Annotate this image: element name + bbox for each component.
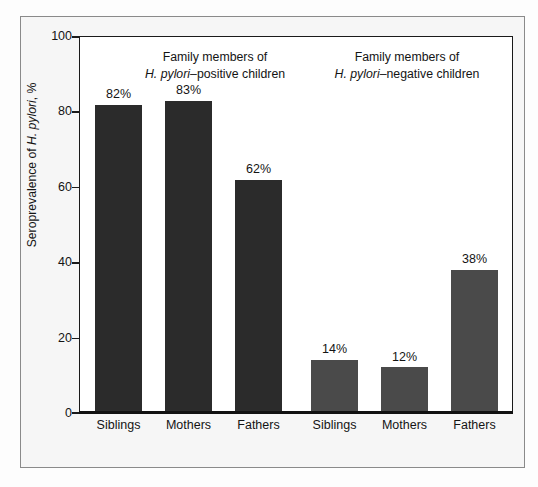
y-tick-label-0: 0 bbox=[65, 407, 72, 420]
bar-fathers-positive bbox=[235, 180, 282, 413]
plot-area: Family members of H. pylori–positive chi… bbox=[80, 37, 512, 412]
y-tick-label-60: 60 bbox=[58, 181, 72, 194]
y-tick-mark-40 bbox=[72, 262, 79, 264]
group-annotation-negative-line1: Family members of bbox=[302, 49, 512, 66]
bar-value-siblings-positive: 82% bbox=[95, 87, 142, 101]
y-tick-label-80: 80 bbox=[58, 105, 72, 118]
x-axis-baseline bbox=[79, 411, 513, 414]
group-annotation-negative-suffix: –negative children bbox=[380, 67, 480, 81]
group-annotation-positive-suffix: –positive children bbox=[190, 67, 285, 81]
group-annotation-negative: Family members of H. pylori–negative chi… bbox=[302, 49, 512, 82]
y-tick-label-100: 100 bbox=[51, 30, 72, 43]
x-tick-label-mothers-positive: Mothers bbox=[156, 418, 221, 432]
bar-mothers-positive bbox=[165, 101, 212, 412]
bar-value-fathers-negative: 38% bbox=[451, 252, 498, 266]
group-annotation-positive-italic: H. pylori bbox=[145, 67, 190, 81]
figure: 100 80 60 40 20 0 Seroprevalence of H. p… bbox=[0, 0, 538, 487]
x-tick-label-siblings-positive: Siblings bbox=[86, 418, 151, 432]
y-tick-mark-0 bbox=[72, 412, 79, 414]
y-axis-title: Seroprevalence of H. pylori, % bbox=[25, 50, 39, 280]
x-axis-tick-labels: Siblings Mothers Fathers Siblings Mother… bbox=[80, 418, 512, 440]
group-annotation-positive-line2: H. pylori–positive children bbox=[110, 66, 320, 83]
bar-value-fathers-positive: 62% bbox=[235, 162, 282, 176]
y-tick-label-40: 40 bbox=[58, 256, 72, 269]
y-tick-mark-100 bbox=[72, 36, 79, 38]
bar-value-mothers-negative: 12% bbox=[381, 350, 428, 364]
y-axis-tick-labels: 100 80 60 40 20 0 bbox=[40, 36, 72, 413]
bar-fathers-negative bbox=[451, 270, 498, 413]
y-tick-mark-60 bbox=[72, 187, 79, 189]
bar-siblings-negative bbox=[311, 360, 358, 413]
bar-mothers-negative bbox=[381, 367, 428, 412]
bar-value-mothers-positive: 83% bbox=[165, 83, 212, 97]
x-tick-label-siblings-negative: Siblings bbox=[302, 418, 367, 432]
y-axis-title-italic: H. pylori bbox=[25, 100, 39, 145]
bar-value-siblings-negative: 14% bbox=[311, 342, 358, 356]
x-tick-label-fathers-positive: Fathers bbox=[226, 418, 291, 432]
x-tick-label-mothers-negative: Mothers bbox=[372, 418, 437, 432]
y-axis-tick-marks bbox=[72, 36, 79, 413]
bar-siblings-positive bbox=[95, 105, 142, 413]
group-annotation-positive: Family members of H. pylori–positive chi… bbox=[110, 49, 320, 82]
x-tick-label-fathers-negative: Fathers bbox=[442, 418, 507, 432]
group-annotation-positive-line1: Family members of bbox=[110, 49, 320, 66]
y-axis-title-suffix: , % bbox=[25, 83, 39, 101]
group-annotation-negative-line2: H. pylori–negative children bbox=[302, 66, 512, 83]
y-tick-mark-80 bbox=[72, 111, 79, 113]
y-tick-mark-20 bbox=[72, 338, 79, 340]
group-annotation-negative-italic: H. pylori bbox=[335, 67, 380, 81]
y-tick-label-20: 20 bbox=[58, 331, 72, 344]
y-axis-title-prefix: Seroprevalence of bbox=[25, 145, 39, 247]
